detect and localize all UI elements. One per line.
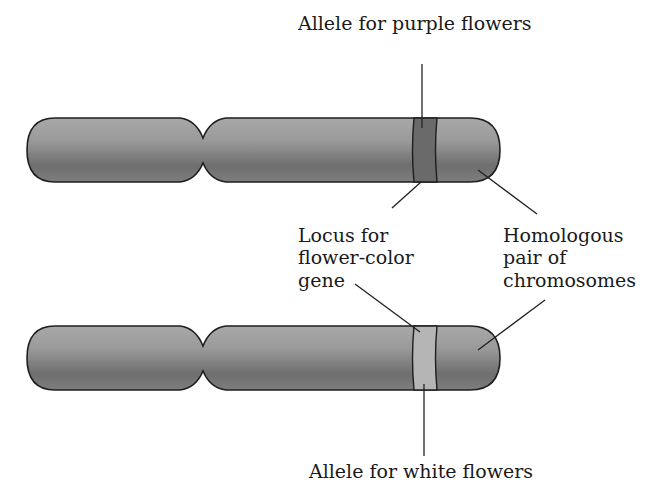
white-allele-band xyxy=(413,326,438,390)
chromosome-top xyxy=(27,118,500,182)
label-white-allele: Allele for white flowers xyxy=(309,460,533,483)
label-locus-line3: gene xyxy=(298,269,345,292)
label-purple-allele: Allele for purple flowers xyxy=(298,12,532,35)
leader-homolog-bottom xyxy=(478,300,545,350)
purple-allele-band xyxy=(413,118,438,182)
label-homologous-line2: pair of xyxy=(503,246,566,269)
leader-locus-bottom xyxy=(355,284,420,332)
leader-locus-top xyxy=(392,182,421,208)
leader-homolog-top xyxy=(478,170,537,214)
label-homologous-line3: chromosomes xyxy=(503,269,636,292)
label-homologous-line1: Homologous xyxy=(503,224,624,247)
label-locus-line1: Locus for xyxy=(298,224,388,247)
chromosome-bottom xyxy=(27,326,500,390)
label-locus-line2: flower-color xyxy=(298,246,414,269)
